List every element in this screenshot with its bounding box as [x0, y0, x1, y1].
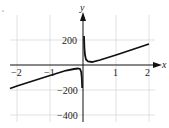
y-axis-label: y: [79, 2, 85, 13]
x-tick-label: 1: [113, 67, 118, 78]
x-tick-label: −2: [11, 67, 22, 78]
y-tick-label: −400: [57, 110, 78, 121]
x-tick-label: 2: [145, 67, 150, 78]
x-tick-label: −1: [44, 67, 55, 78]
chart: −2 −1 1 2 200 −200 −400 x y: [0, 0, 169, 128]
x-axis-arrow-icon: [153, 62, 162, 68]
y-tick-label: −200: [57, 85, 78, 96]
axes: [10, 12, 162, 122]
x-axis-label: x: [161, 59, 167, 70]
stray-dot: [2, 10, 3, 11]
y-tick-label: 200: [62, 35, 77, 46]
y-axis-arrow-icon: [80, 12, 86, 21]
function-curve: [10, 36, 149, 89]
